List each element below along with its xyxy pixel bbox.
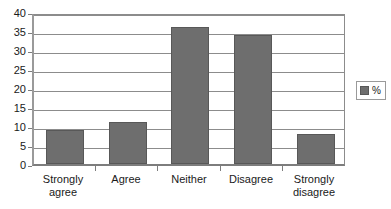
bar	[109, 122, 147, 164]
bar	[171, 27, 209, 164]
bar	[46, 130, 84, 164]
x-axis-label-line: agree	[26, 186, 100, 199]
y-tick-label-40: 40	[14, 7, 26, 19]
y-tick-label-25: 25	[14, 64, 26, 76]
bar	[234, 35, 272, 164]
x-axis-label-line: disagree	[277, 186, 351, 199]
x-axis-label: Stronglydisagree	[277, 173, 351, 198]
x-axis-label-line: Strongly	[43, 173, 83, 185]
bars-layer	[34, 15, 344, 164]
y-tick-label-0: 0	[20, 159, 26, 171]
bar	[297, 134, 335, 164]
y-tick-label-15: 15	[14, 102, 26, 114]
x-tick-mark	[157, 166, 158, 171]
y-tick-label-20: 20	[14, 83, 26, 95]
y-tick-label-5: 5	[20, 140, 26, 152]
bar-chart: 4035302520151050 StronglyagreeAgreeNeith…	[0, 0, 391, 209]
bar-slot	[284, 15, 347, 164]
legend-label-percent: %	[372, 85, 381, 96]
bar-slot	[34, 15, 97, 164]
x-axis-label-line: Disagree	[229, 173, 273, 185]
y-tick-label-35: 35	[14, 26, 26, 38]
bar-slot	[222, 15, 285, 164]
x-tick-mark	[95, 166, 96, 171]
plot-area	[32, 14, 345, 166]
x-axis-label-line: Neither	[171, 173, 206, 185]
bar-slot	[97, 15, 160, 164]
x-axis-label-line: Agree	[111, 173, 140, 185]
legend-swatch-percent	[360, 86, 369, 95]
x-axis-label-line: Strongly	[294, 173, 334, 185]
y-tick-label-30: 30	[14, 45, 26, 57]
y-tick-label-10: 10	[14, 121, 26, 133]
y-axis: 4035302520151050	[0, 14, 32, 166]
x-tick-mark	[282, 166, 283, 171]
legend: %	[356, 81, 386, 100]
bar-slot	[159, 15, 222, 164]
x-tick-mark	[220, 166, 221, 171]
x-axis: StronglyagreeAgreeNeitherDisagreeStrongl…	[32, 166, 345, 208]
